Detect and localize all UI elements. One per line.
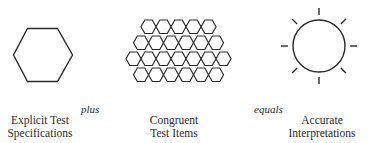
sun-ray-icon: [292, 68, 297, 73]
label-line: Interpretations: [276, 127, 368, 140]
small-hexagon-icon: [156, 52, 171, 66]
label-explicit-test-specifications: Explicit Test Specifications: [0, 114, 80, 140]
small-hexagon-icon: [126, 52, 141, 66]
hexagon-cluster-icon: [126, 20, 231, 82]
small-hexagon-icon: [149, 68, 164, 82]
small-hexagon-icon: [156, 20, 171, 34]
small-hexagon-icon: [141, 52, 156, 66]
small-hexagon-icon: [164, 68, 179, 82]
small-hexagon-icon: [186, 20, 201, 34]
small-hexagon-icon: [179, 68, 194, 82]
label-line: Congruent: [134, 114, 214, 127]
small-hexagon-icon: [216, 52, 231, 66]
small-hexagon-icon: [171, 20, 186, 34]
small-hexagon-icon: [194, 36, 209, 50]
sun-ray-icon: [341, 68, 346, 73]
small-hexagon-icon: [141, 20, 156, 34]
small-hexagon-icon: [179, 36, 194, 50]
small-hexagon-icon: [201, 52, 216, 66]
small-hexagon-icon: [186, 52, 201, 66]
sun-icon: [281, 8, 357, 84]
label-line: Test Items: [134, 127, 214, 140]
small-hexagon-icon: [164, 36, 179, 50]
small-hexagon-icon: [149, 36, 164, 50]
small-hexagon-icon: [201, 20, 216, 34]
small-hexagon-icon: [194, 68, 209, 82]
small-hexagon-icon: [171, 52, 186, 66]
label-accurate-interpretations: Accurate Interpretations: [276, 114, 368, 140]
label-congruent-test-items: Congruent Test Items: [134, 114, 214, 140]
diagram-figure: Explicit Test Specifications plus Congru…: [0, 0, 372, 143]
label-line: Specifications: [0, 127, 80, 140]
small-hexagon-icon: [134, 68, 149, 82]
small-hexagon-icon: [209, 36, 224, 50]
connector-plus: plus: [81, 103, 99, 115]
sun-ray-icon: [292, 19, 297, 24]
label-line: Explicit Test: [0, 114, 80, 127]
label-line: Accurate: [276, 114, 368, 127]
sun-ray-icon: [341, 19, 346, 24]
hexagon-icon: [14, 29, 73, 82]
small-hexagon-icon: [134, 36, 149, 50]
small-hexagon-icon: [209, 68, 224, 82]
